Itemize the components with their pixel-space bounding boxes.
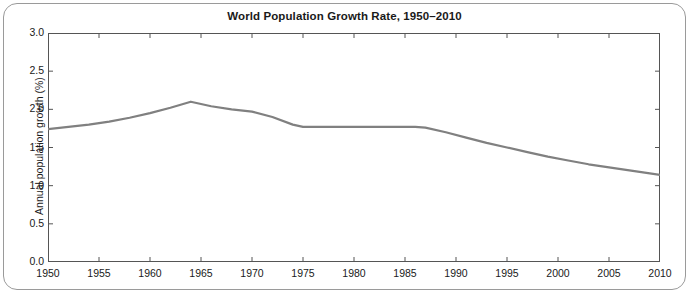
x-tick-label: 1960: [127, 267, 173, 279]
x-tick-label: 2005: [586, 267, 632, 279]
x-tick-label: 1950: [25, 267, 71, 279]
x-tick-label: 1995: [484, 267, 530, 279]
x-tick-label: 1970: [229, 267, 275, 279]
x-tick-label: 2000: [535, 267, 581, 279]
x-tick-label: 1955: [76, 267, 122, 279]
x-tick-label: 1990: [433, 267, 479, 279]
growth-rate-line: [48, 102, 660, 175]
chart-figure: World Population Growth Rate, 1950–2010 …: [0, 0, 689, 293]
x-tick-label: 1965: [178, 267, 224, 279]
plot-canvas: [48, 33, 660, 262]
x-tick-label: 1985: [382, 267, 428, 279]
x-tick-label: 1980: [331, 267, 377, 279]
axis-tick-marks: [48, 33, 660, 262]
x-tick-label: 2010: [637, 267, 683, 279]
x-tick-label: 1975: [280, 267, 326, 279]
